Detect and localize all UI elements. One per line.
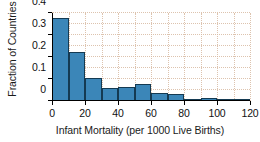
- y-tick-label: 0.4: [32, 0, 46, 7]
- x-tick-label: 40: [112, 107, 123, 119]
- y-tick-label: 0.3: [32, 17, 46, 29]
- y-axis-title: Fraction of Countries: [6, 0, 18, 104]
- histogram-bar: [135, 84, 152, 101]
- x-tick-label: 80: [178, 107, 189, 119]
- x-tick-label: 100: [209, 107, 226, 119]
- histogram-bar: [118, 87, 135, 101]
- x-tick-mark: [118, 101, 119, 105]
- x-tick-mark: [52, 101, 53, 105]
- x-tick-mark: [151, 101, 152, 105]
- y-tick-label: 0.1: [32, 61, 46, 73]
- x-tick-mark: [85, 101, 86, 105]
- x-tick-mark: [250, 101, 251, 105]
- x-tick-label: 120: [242, 107, 259, 119]
- x-tick-mark: [184, 101, 185, 105]
- histogram-bar: [52, 18, 69, 101]
- gridline-vertical: [168, 13, 169, 101]
- x-axis-title: Infant Mortality (per 1000 Live Births): [24, 124, 256, 136]
- gridline-vertical: [151, 13, 152, 101]
- x-tick-mark: [217, 101, 218, 105]
- x-tick-label: 60: [145, 107, 156, 119]
- x-tick-label: 20: [79, 107, 90, 119]
- histogram-bar: [85, 78, 102, 101]
- y-axis-line: [52, 13, 53, 101]
- chart-figure: Fraction of Countries 00.10.20.30.4 0204…: [0, 0, 260, 142]
- gridline-vertical: [184, 13, 185, 101]
- gridline-vertical: [250, 13, 251, 101]
- gridline-vertical: [201, 13, 202, 101]
- y-tick-label: 0: [40, 83, 46, 95]
- gridline-vertical: [234, 13, 235, 101]
- plot-area: 00.10.20.30.4 020406080100120: [52, 13, 250, 101]
- histogram-bar: [69, 52, 86, 101]
- x-tick-label: 0: [49, 107, 55, 119]
- gridline-vertical: [217, 13, 218, 101]
- y-tick-label: 0.2: [32, 39, 46, 51]
- x-axis-line: [52, 100, 250, 101]
